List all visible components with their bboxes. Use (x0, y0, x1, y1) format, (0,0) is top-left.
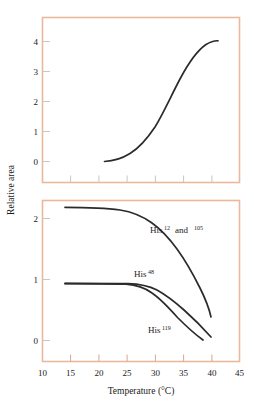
bottom-xtick-45: 45 (235, 368, 245, 378)
bottom-xtick-40: 40 (207, 368, 217, 378)
his119-label-sup1: 119 (162, 325, 171, 331)
top-ytick-0: 0 (34, 157, 39, 167)
top-ytick-1: 1 (34, 127, 39, 137)
bottom-xtick-15: 15 (66, 368, 76, 378)
bottom-ytick-2: 2 (34, 214, 39, 224)
top-panel: 4 3 2 1 0 (34, 18, 240, 183)
his12-105-label-sup1: 12 (164, 225, 170, 231)
bottom-panel-frame (43, 201, 240, 362)
bottom-xtick-10: 10 (38, 368, 48, 378)
y-axis-title: Relative area (6, 164, 16, 215)
his12-105-label-sup2: 105 (194, 225, 203, 231)
bottom-xtick-30: 30 (151, 368, 161, 378)
top-ytick-4: 4 (34, 37, 39, 47)
chart-svg: 4 3 2 1 0 (0, 0, 254, 414)
top-ytick-2: 2 (34, 97, 39, 107)
top-ytick-3: 3 (34, 67, 39, 77)
his12-105-label-mid: and (175, 225, 188, 235)
his119-label-text: His (148, 325, 161, 335)
bottom-panel: 2 1 0 10 15 20 25 30 35 40 45 His 12 and (34, 201, 245, 398)
bottom-ytick-1: 1 (34, 275, 39, 285)
figure-container: 4 3 2 1 0 (0, 0, 254, 414)
his12-105-label-text: His (150, 225, 163, 235)
bottom-xtick-20: 20 (94, 368, 104, 378)
his48-label-text: His (134, 269, 147, 279)
x-axis-title: Temperature (°C) (108, 386, 175, 397)
his48-label-sup1: 48 (148, 269, 154, 275)
bottom-ytick-0: 0 (34, 336, 39, 346)
bottom-xtick-35: 35 (179, 368, 189, 378)
bottom-xtick-25: 25 (123, 368, 133, 378)
